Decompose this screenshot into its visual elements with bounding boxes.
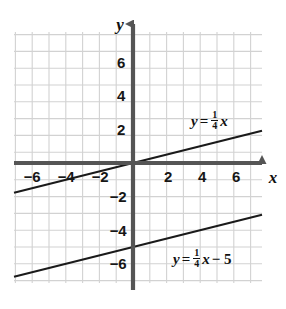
eq1-numerator: 1	[211, 110, 218, 121]
y-tick-label--6: −6	[110, 256, 127, 271]
y-tick-label--4: −4	[110, 223, 127, 238]
y-axis-name: y	[116, 16, 124, 33]
eq1-fraction: 1 4	[211, 110, 218, 132]
eq2-equals: =	[181, 252, 192, 267]
eq2-numerator: 1	[193, 248, 200, 259]
equation-label-line1: y = 1 4 x	[191, 110, 228, 132]
x-tick-label-6: 6	[232, 169, 240, 184]
y-tick-label-4: 4	[117, 88, 125, 103]
x-axis-name: x	[269, 169, 278, 186]
eq1-denominator: 4	[211, 120, 218, 132]
eq1-lhs: y	[191, 114, 198, 129]
x-tick-label--4: −4	[58, 169, 75, 184]
y-tick-label--2: −2	[110, 189, 127, 204]
y-tick-label-2: 2	[117, 122, 125, 137]
eq2-tail: − 5	[211, 252, 233, 267]
x-tick-label--2: −2	[92, 169, 109, 184]
x-tick-label--6: −6	[24, 169, 41, 184]
x-tick-label-4: 4	[198, 169, 206, 184]
eq2-variable: x	[202, 252, 210, 267]
equation-label-line2: y = 1 4 x − 5	[173, 248, 233, 270]
coordinate-plane-figure: −6 −4 −2 2 4 6 6 4 2 −2 −4 −6 x y y = 1 …	[0, 0, 286, 309]
eq1-equals: =	[199, 114, 210, 129]
eq2-denominator: 4	[193, 258, 200, 270]
eq2-fraction: 1 4	[193, 248, 200, 270]
eq2-lhs: y	[173, 252, 180, 267]
graph-canvas	[0, 0, 286, 309]
x-tick-label-2: 2	[164, 169, 172, 184]
y-tick-label-6: 6	[117, 55, 125, 70]
eq1-variable: x	[220, 114, 228, 129]
